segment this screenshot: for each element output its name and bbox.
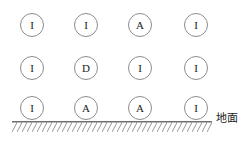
node-label: I [75,14,97,36]
node-label: I [185,14,207,36]
ground-hatching [12,121,212,132]
node-label: I [21,97,43,119]
node-label: A [75,97,97,119]
node-circle[interactable]: I [20,56,44,80]
node-label: I [185,97,207,119]
node-label: I [129,57,151,79]
node-label: A [129,97,151,119]
node-label: A [129,14,151,36]
node-circle[interactable]: A [128,96,152,120]
node-grid: IIAIIDIIIAAI [0,0,252,122]
node-circle[interactable]: I [184,96,208,120]
node-circle[interactable]: A [128,13,152,37]
figure-canvas: IIAIIDIIIAAI 地面 [0,0,252,150]
node-circle[interactable]: I [74,13,98,37]
node-circle[interactable]: I [128,56,152,80]
node-circle[interactable]: I [184,56,208,80]
node-label: D [75,57,97,79]
node-label: I [21,14,43,36]
node-circle[interactable]: I [20,96,44,120]
node-circle[interactable]: I [20,13,44,37]
node-label: I [21,57,43,79]
node-circle[interactable]: A [74,96,98,120]
node-circle[interactable]: D [74,56,98,80]
node-label: I [185,57,207,79]
ground-label: 地面 [216,112,238,124]
node-circle[interactable]: I [184,13,208,37]
